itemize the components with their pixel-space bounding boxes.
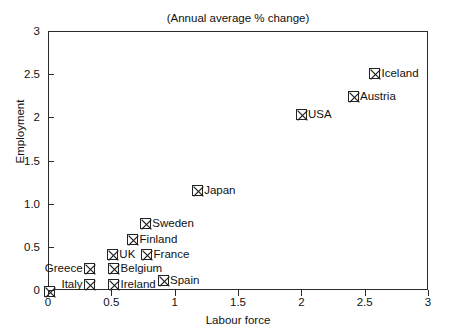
data-point-label: Italy	[61, 278, 82, 290]
data-point-label: USA	[308, 108, 332, 120]
data-point-label: Austria	[360, 90, 396, 102]
square-x-marker-icon	[107, 249, 118, 260]
square-x-marker-icon	[44, 286, 55, 297]
y-tick-mark	[48, 31, 54, 32]
square-x-marker-icon	[348, 91, 359, 102]
data-point-label: UK	[119, 248, 135, 260]
square-x-marker-icon	[192, 185, 203, 196]
square-x-marker-icon	[141, 249, 152, 260]
y-tick-label: 3	[6, 25, 40, 37]
square-x-marker-icon	[296, 109, 307, 120]
data-point-label: Sweden	[152, 217, 194, 229]
data-point-label: Spain	[170, 274, 199, 286]
y-tick-label: 1.0	[6, 198, 40, 210]
x-tick-label: 1	[155, 296, 195, 309]
data-points-layer: ItalyGreeceUKBelgiumIrelandFranceFinland…	[49, 32, 427, 289]
square-x-marker-icon	[108, 279, 119, 290]
x-tick-label: 0	[28, 296, 68, 309]
data-point-label: Ireland	[121, 278, 156, 290]
data-point-label: France	[154, 248, 190, 260]
chart-title: (Annual average % change)	[48, 11, 428, 25]
square-x-marker-icon	[84, 263, 95, 274]
data-point-label: Belgium	[121, 262, 163, 274]
data-point-label: Japan	[204, 184, 235, 196]
data-point-label: Iceland	[382, 67, 419, 79]
y-tick-mark	[48, 117, 54, 118]
y-tick-mark	[48, 247, 54, 248]
square-x-marker-icon	[127, 234, 138, 245]
y-tick-mark	[48, 204, 54, 205]
data-point-label: Greece	[45, 262, 83, 274]
scatter-chart-figure: (Annual average % change) ItalyGreeceUKB…	[0, 0, 462, 333]
y-tick-label: 0.5	[6, 241, 40, 253]
x-tick-label: 3	[408, 296, 448, 309]
square-x-marker-icon	[369, 68, 380, 79]
y-axis-label: Employment	[14, 77, 27, 187]
square-x-marker-icon	[140, 218, 151, 229]
x-tick-label: 1.5	[218, 296, 258, 309]
x-axis-label: Labour force	[48, 313, 428, 327]
y-tick-mark	[48, 74, 54, 75]
x-tick-label: 2	[281, 296, 321, 309]
x-tick-label: 2.5	[345, 296, 385, 309]
y-tick-label: 0	[6, 284, 40, 296]
square-x-marker-icon	[84, 279, 95, 290]
data-point-label: Finland	[140, 233, 178, 245]
square-x-marker-icon	[108, 263, 119, 274]
y-tick-mark	[48, 161, 54, 162]
x-tick-label: 0.5	[91, 296, 131, 309]
square-x-marker-icon	[158, 275, 169, 286]
plot-area: ItalyGreeceUKBelgiumIrelandFranceFinland…	[48, 31, 428, 290]
